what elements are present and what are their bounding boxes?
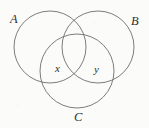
- label-set-a: A: [10, 13, 18, 26]
- label-region-x: x: [55, 63, 60, 74]
- label-region-y: y: [94, 64, 99, 75]
- circle-set-a: [14, 11, 86, 83]
- label-set-c: C: [74, 111, 82, 124]
- venn-diagram-figure: A B C x y: [0, 0, 149, 128]
- label-set-b: B: [131, 15, 139, 28]
- venn-diagram-canvas: [0, 0, 149, 128]
